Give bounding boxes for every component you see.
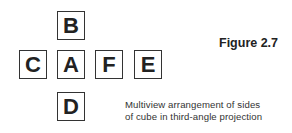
face-d-box: D bbox=[57, 92, 85, 121]
caption-line-2: of cube in third-angle projection bbox=[125, 111, 262, 123]
figure-label: Figure 2.7 bbox=[219, 36, 278, 50]
caption-line-1: Multiview arrangement of sides bbox=[125, 99, 262, 111]
face-a-box: A bbox=[57, 50, 85, 79]
face-f-box: F bbox=[95, 50, 123, 79]
figure-caption: Multiview arrangement of sides of cube i… bbox=[125, 99, 262, 122]
face-e-box: E bbox=[134, 50, 162, 79]
face-c-box: C bbox=[19, 50, 47, 79]
face-b-box: B bbox=[57, 11, 85, 40]
